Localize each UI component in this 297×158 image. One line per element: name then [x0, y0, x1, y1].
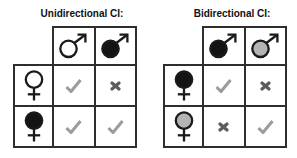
cross-mark-cell: [245, 65, 287, 106]
cross-icon: [109, 80, 122, 92]
unidirectional-ci-grid: [13, 26, 137, 148]
check-mark-cell: [53, 65, 95, 106]
check-mark-cell: [95, 106, 137, 147]
bidirectional-ci-title: Bidirectional CI:: [177, 8, 287, 19]
check-mark-cell: [53, 106, 95, 147]
female-icon: [22, 69, 46, 102]
unidirectional-ci-table: Unidirectional CI:: [13, 8, 137, 148]
bidirectional-ci-grid: [163, 26, 287, 148]
cross-icon: [217, 121, 230, 133]
check-mark-cell: [203, 65, 245, 106]
column-header-male-black: [203, 27, 245, 65]
check-mark-cell: [245, 106, 287, 147]
empty-corner-cell: [14, 27, 53, 65]
cross-mark-cell: [203, 106, 245, 147]
row-header-female-black: [14, 106, 53, 147]
row-header-female-white: [14, 65, 53, 106]
empty-corner-cell: [164, 27, 203, 65]
unidirectional-ci-title: Unidirectional CI:: [27, 8, 137, 19]
female-icon: [172, 69, 196, 102]
cross-icon: [259, 80, 272, 92]
cross-mark-cell: [95, 65, 137, 106]
check-icon: [214, 78, 233, 94]
row-header-female-gray: [164, 106, 203, 147]
column-header-male-black: [95, 27, 137, 65]
male-icon: [99, 32, 132, 60]
column-header-male-gray: [245, 27, 287, 65]
bidirectional-ci-table: Bidirectional CI:: [163, 8, 287, 148]
row-header-female-black: [164, 65, 203, 106]
male-icon: [249, 32, 282, 60]
male-icon: [207, 32, 240, 60]
check-icon: [106, 119, 125, 135]
female-icon: [172, 110, 196, 143]
ci-figure: { "colors": { "outline": "#1a1a1a", "gri…: [0, 0, 297, 158]
male-icon: [57, 32, 90, 60]
check-icon: [64, 119, 83, 135]
check-icon: [64, 78, 83, 94]
female-icon: [22, 110, 46, 143]
check-icon: [256, 119, 275, 135]
column-header-male-white: [53, 27, 95, 65]
